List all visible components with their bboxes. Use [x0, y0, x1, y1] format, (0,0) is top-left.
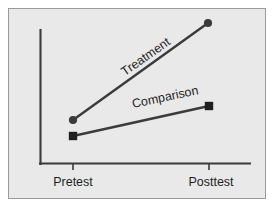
data-point-treatment-posttest [204, 19, 212, 27]
data-point-treatment-pretest [69, 116, 77, 124]
chart-figure: Pretest Posttest Treatment Comparison [0, 0, 275, 208]
series-line-comparison [73, 106, 209, 136]
tick-label-posttest: Posttest [188, 175, 234, 189]
data-point-comparison-posttest [205, 102, 213, 110]
tick-label-pretest: Pretest [53, 175, 93, 189]
series-label-comparison: Comparison [131, 83, 200, 111]
data-point-comparison-pretest [69, 132, 77, 140]
series-label-treatment: Treatment [119, 34, 174, 78]
chart-canvas: Pretest Posttest Treatment Comparison [0, 0, 275, 208]
